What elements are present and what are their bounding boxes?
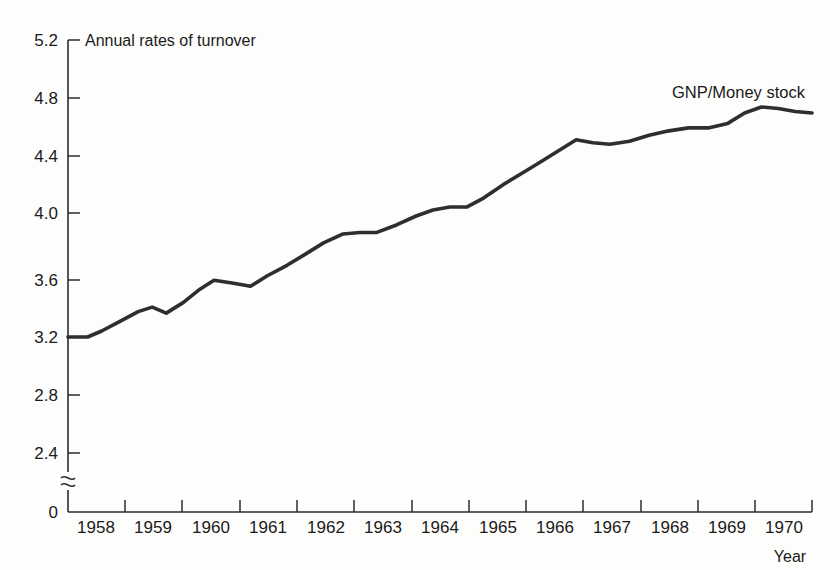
- ytick-label-4-4: 4.4: [34, 147, 58, 166]
- axis-break-icon: [61, 477, 75, 487]
- x-axis-title: Year: [774, 548, 807, 565]
- chart-figure: 5.2 4.8 4.4 4.0 3.6 3.2 2.8 2.4 0 1958 1…: [0, 0, 840, 570]
- line-chart-canvas: 5.2 4.8 4.4 4.0 3.6 3.2 2.8 2.4 0 1958 1…: [0, 0, 840, 570]
- ytick-label-4-8: 4.8: [34, 89, 58, 108]
- xtick-label-1964: 1964: [421, 518, 459, 537]
- xtick-label-1959: 1959: [134, 518, 172, 537]
- xtick-label-1958: 1958: [77, 518, 115, 537]
- xtick-label-1967: 1967: [593, 518, 631, 537]
- ytick-label-5-2: 5.2: [34, 31, 58, 50]
- xtick-label-1965: 1965: [479, 518, 517, 537]
- chart-top-label: Annual rates of turnover: [85, 32, 256, 49]
- ytick-label-4-0: 4.0: [34, 204, 58, 223]
- xtick-label-1963: 1963: [364, 518, 402, 537]
- ytick-label-2-8: 2.8: [34, 386, 58, 405]
- ytick-label-3-6: 3.6: [34, 271, 58, 290]
- x-ticks: [125, 500, 812, 512]
- ytick-label-0: 0: [49, 503, 58, 522]
- xtick-label-1970: 1970: [765, 518, 803, 537]
- xtick-label-1960: 1960: [192, 518, 230, 537]
- y-ticks: [68, 40, 80, 453]
- xtick-label-1966: 1966: [536, 518, 574, 537]
- xtick-label-1968: 1968: [651, 518, 689, 537]
- series-line-gnp-money-stock: [68, 107, 812, 337]
- ytick-label-3-2: 3.2: [34, 328, 58, 347]
- ytick-label-2-4: 2.4: [34, 444, 58, 463]
- series-label-gnp-money-stock: GNP/Money stock: [672, 83, 806, 101]
- xtick-label-1969: 1969: [708, 518, 746, 537]
- xtick-label-1962: 1962: [307, 518, 345, 537]
- xtick-label-1961: 1961: [249, 518, 287, 537]
